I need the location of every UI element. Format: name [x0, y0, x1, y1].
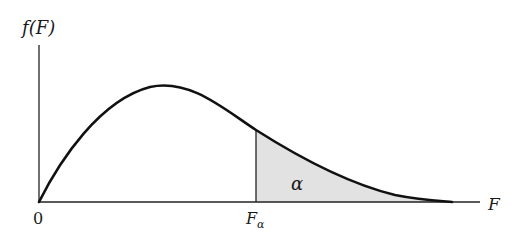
- x-axis-label: F: [487, 194, 501, 214]
- f-distribution-diagram: f(F) F 0 Fα α: [0, 0, 519, 242]
- critical-value-label: Fα: [245, 209, 265, 231]
- origin-label: 0: [33, 209, 43, 228]
- shaded-tail-area: [256, 130, 452, 202]
- density-curve: [39, 85, 452, 202]
- shaded-area-label: α: [291, 173, 303, 194]
- y-axis-label: f(F): [20, 17, 55, 38]
